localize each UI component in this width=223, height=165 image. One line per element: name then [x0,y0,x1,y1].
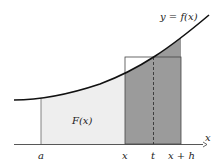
diagram-svg: y = f(x) F(x) x a x t x + h [0,0,223,165]
tick-label-t: t [151,150,156,161]
area-h-region [125,38,181,144]
tick-label-a: a [38,150,44,161]
axis-label: x [205,132,211,143]
tick-label-x-plus-h: x + h [168,150,195,161]
tick-label-x: x [122,150,128,161]
curve-label: y = f(x) [159,11,198,22]
integral-diagram: y = f(x) F(x) x a x t x + h [0,0,223,165]
area-F-region [41,73,125,144]
area-label: F(x) [71,115,92,126]
